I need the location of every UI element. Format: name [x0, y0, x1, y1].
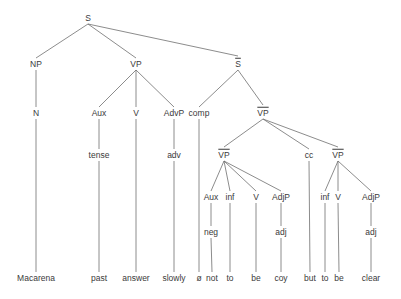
tree-node-adj2: adj	[365, 228, 376, 237]
leaf-word: answer	[122, 274, 149, 283]
tree-edge	[224, 119, 263, 147]
tree-edge	[309, 161, 310, 272]
syntax-tree: SNPVPSNAuxVAdvPcompVPtenseadvVPccVPAuxin…	[0, 0, 401, 299]
tree-node-n: N	[33, 109, 39, 118]
tree-node-neg: neg	[204, 228, 218, 237]
tree-node-advp: AdvP	[164, 109, 184, 118]
tree-node-v2: V	[253, 193, 259, 202]
leaf-word: but	[304, 274, 316, 283]
tree-node-np: NP	[30, 60, 42, 69]
leaf-word: not	[206, 274, 218, 283]
tree-node-tense: tense	[89, 151, 110, 160]
tree-edge	[224, 161, 281, 191]
tree-node-vpbar: VP	[257, 109, 268, 118]
tree-edge	[338, 161, 371, 191]
tree-edge	[99, 70, 136, 107]
tree-node-inf1: inf	[226, 193, 235, 202]
tree-edge	[263, 119, 338, 147]
leaf-word: be	[334, 274, 343, 283]
leaf-word: to	[321, 274, 328, 283]
tree-node-adjp2: AdjP	[362, 193, 380, 202]
leaf-word: past	[91, 274, 107, 283]
tree-node-vp: VP	[130, 60, 141, 69]
tree-edge	[238, 70, 263, 105]
tree-edge	[211, 161, 224, 191]
leaf-word: slowly	[162, 274, 185, 283]
tree-edge	[36, 24, 88, 58]
tree-node-adv: adv	[167, 151, 181, 160]
tree-node-adj1: adj	[275, 228, 286, 237]
tree-node-aux1: Aux	[92, 109, 107, 118]
tree-edge	[338, 203, 339, 272]
tree-node-aux2: Aux	[204, 193, 219, 202]
tree-node-cc: cc	[305, 151, 314, 160]
tree-node-v1: V	[133, 109, 139, 118]
tree-node-comp: comp	[189, 109, 210, 118]
tree-node-vpbarl: VP	[218, 151, 229, 160]
leaf-word: clear	[362, 274, 380, 283]
leaf-word: ø	[196, 274, 201, 283]
leaf-word: Macarena	[17, 274, 55, 283]
tree-node-v3: V	[335, 193, 341, 202]
leaf-word: to	[226, 274, 233, 283]
tree-node-vpbarr: VP	[332, 151, 343, 160]
leaf-word: coy	[274, 274, 287, 283]
tree-node-s: S	[85, 14, 91, 23]
tree-edge	[199, 70, 238, 107]
leaf-word: be	[251, 274, 260, 283]
tree-node-adjp1: AdjP	[272, 193, 290, 202]
tree-node-sbar: S	[235, 60, 241, 69]
tree-edge	[211, 238, 212, 272]
tree-edge	[325, 161, 338, 191]
tree-node-inf2: inf	[321, 193, 330, 202]
tree-edge	[136, 70, 174, 107]
